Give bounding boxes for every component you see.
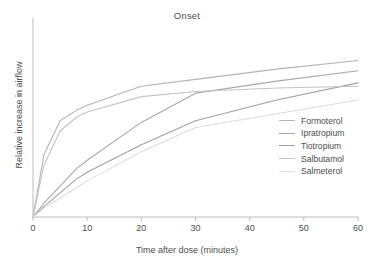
legend-swatch-icon	[279, 158, 295, 159]
legend-item-ipratropium[interactable]: Ipratropium	[279, 128, 344, 140]
legend-label: Ipratropium	[301, 128, 344, 138]
legend-item-salmeterol[interactable]: Salmeterol	[279, 165, 344, 177]
x-tick-label: 0	[22, 223, 44, 233]
legend-label: Formoterol	[301, 116, 343, 126]
x-axis-ticks	[33, 217, 358, 221]
x-axis-label: Time after dose (minutes)	[0, 245, 374, 255]
legend-label: Salmeterol	[301, 166, 342, 176]
legend-item-tiotropium[interactable]: Tiotropium	[279, 140, 344, 152]
legend-label: Tiotropium	[301, 141, 341, 151]
legend-swatch-icon	[279, 145, 295, 146]
legend-item-formoterol[interactable]: Formoterol	[279, 115, 344, 127]
legend-swatch-icon	[279, 120, 295, 121]
y-axis-label: Relative increase in airflow	[14, 40, 24, 190]
x-tick-label: 40	[239, 223, 261, 233]
legend-item-salbutamol[interactable]: Salbutamol	[279, 153, 344, 165]
legend-swatch-icon	[279, 171, 295, 172]
legend-label: Salbutamol	[301, 154, 344, 164]
x-tick-label: 30	[185, 223, 207, 233]
x-tick-label: 10	[76, 223, 98, 233]
x-tick-label: 50	[293, 223, 315, 233]
chart-container: Onset 0102030405060 Time after dose (min…	[0, 0, 374, 269]
legend-swatch-icon	[279, 133, 295, 134]
x-tick-label: 20	[130, 223, 152, 233]
chart-legend: FormoterolIpratropiumTiotropiumSalbutamo…	[279, 115, 344, 177]
x-tick-label: 60	[347, 223, 369, 233]
